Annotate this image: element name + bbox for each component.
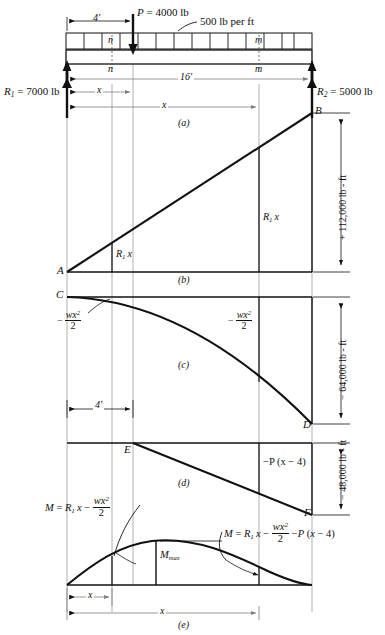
caption-c: (c) xyxy=(178,360,189,370)
section-n-top-label: n xyxy=(108,35,113,45)
load-leader xyxy=(178,22,197,31)
distributed-load-label: 500 lb per ft xyxy=(200,16,254,27)
dim-x-short-a-label: x xyxy=(95,85,103,95)
label-point-e: E xyxy=(124,444,131,455)
dim-x-long-e-label: x xyxy=(158,606,166,616)
ordinate-r1x-right: R1 x xyxy=(263,212,279,223)
value-64000-label: − 64,000 lb - ft xyxy=(338,340,348,400)
dim-x-long-a-label: x xyxy=(160,100,168,110)
reaction-left-label: R1 = 7000 lb xyxy=(4,86,59,98)
dim-16ft-label: 16' xyxy=(178,72,194,82)
label-point-d: D xyxy=(303,419,311,430)
dim-x-short-e-label: x xyxy=(86,590,94,600)
figure-sheet: P = 4000 lb 500 lb per ft 4' n m n m 16'… xyxy=(0,0,385,635)
dim-4ft-c-label: 4' xyxy=(93,400,104,410)
formula-right-e: M = R1 x − wx22 −P (x − 4) xyxy=(224,522,335,545)
beam-body xyxy=(66,50,312,64)
label-point-b: B xyxy=(315,105,322,116)
label-point-c: C xyxy=(56,289,63,300)
m-max-label: Mmax xyxy=(160,550,180,561)
point-load-label: P = 4000 lb xyxy=(137,7,189,18)
reaction-right-label: R2 = 5000 lb xyxy=(317,86,372,98)
ordinate-px4-label: −P (x − 4) xyxy=(263,457,306,468)
ordinate-wx2-right: − wx22 xyxy=(228,310,252,331)
distributed-load-blocks xyxy=(66,33,312,49)
value-48000-label: − 48,000 lb - ft xyxy=(338,440,348,500)
caption-a: (a) xyxy=(178,118,190,128)
section-m-top-label: m xyxy=(255,35,262,45)
label-point-f: F xyxy=(304,507,311,518)
value-112000-label: + 112,000 lb - ft xyxy=(338,175,348,240)
caption-b: (b) xyxy=(178,275,190,285)
caption-d: (d) xyxy=(178,478,190,488)
diagram-e-plot xyxy=(67,540,312,585)
dim-4ft-label: 4' xyxy=(93,13,100,23)
formula-left-e: M = R1 x − wx22 xyxy=(45,496,110,519)
section-n-bottom-label: n xyxy=(108,64,113,74)
diagram-b-plot xyxy=(67,113,312,272)
label-point-a: A xyxy=(57,265,64,276)
section-m-bottom-label: m xyxy=(255,64,262,74)
caption-e: (e) xyxy=(178,620,189,630)
ordinate-wx2-left: − wx22 xyxy=(57,310,81,331)
ordinate-r1x-left: R1 x xyxy=(116,249,132,260)
e-leader-left xyxy=(114,505,140,556)
